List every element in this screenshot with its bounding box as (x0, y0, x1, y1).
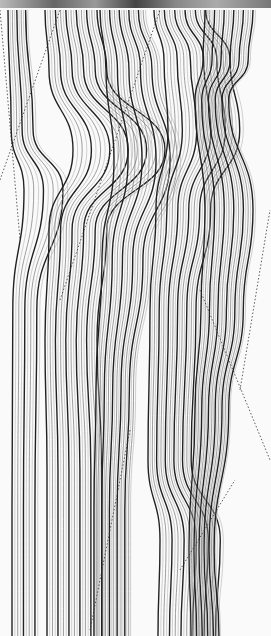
line-art-canvas (0, 0, 271, 636)
line-art (0, 10, 271, 636)
top-strip (0, 0, 271, 8)
